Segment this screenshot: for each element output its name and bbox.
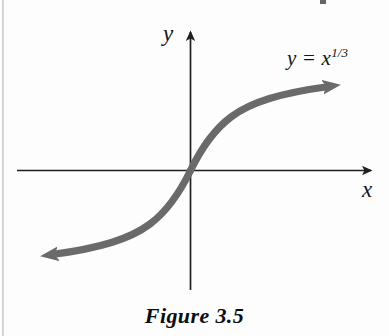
- equation-operator: =: [297, 46, 322, 70]
- curve-right-branch: [191, 87, 330, 171]
- curve-left-branch: [52, 171, 191, 255]
- figure-3-5: y x y=x1/3 Figure 3.5: [0, 0, 389, 336]
- figure-caption: Figure 3.5: [0, 303, 389, 329]
- equation-annotation: y=x1/3: [287, 46, 348, 69]
- equation-exponent: 1/3: [331, 45, 348, 60]
- equation-base: x: [322, 46, 332, 70]
- y-axis-label: y: [163, 22, 173, 45]
- x-axis-label: x: [362, 178, 372, 201]
- equation-lhs: y: [287, 46, 297, 70]
